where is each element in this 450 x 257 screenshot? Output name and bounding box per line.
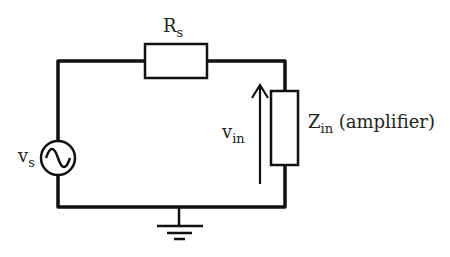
vin-label: vin <box>221 121 245 146</box>
bottom-wire <box>58 165 285 207</box>
ground-icon <box>157 207 203 239</box>
voltage-arrow-icon <box>252 85 268 184</box>
rs-label: Rs <box>163 15 183 40</box>
vs-label: vs <box>17 145 35 170</box>
wires <box>58 61 285 207</box>
ac-source-icon <box>41 141 75 175</box>
zin-label: Zin (amplifier) <box>308 111 435 136</box>
series-resistor <box>145 44 207 78</box>
circuit-diagram: Rs vs Zin (amplifier) vin <box>0 0 450 257</box>
top-left-wire <box>58 61 145 141</box>
top-right-wire <box>207 61 285 91</box>
load-impedance <box>271 91 298 165</box>
